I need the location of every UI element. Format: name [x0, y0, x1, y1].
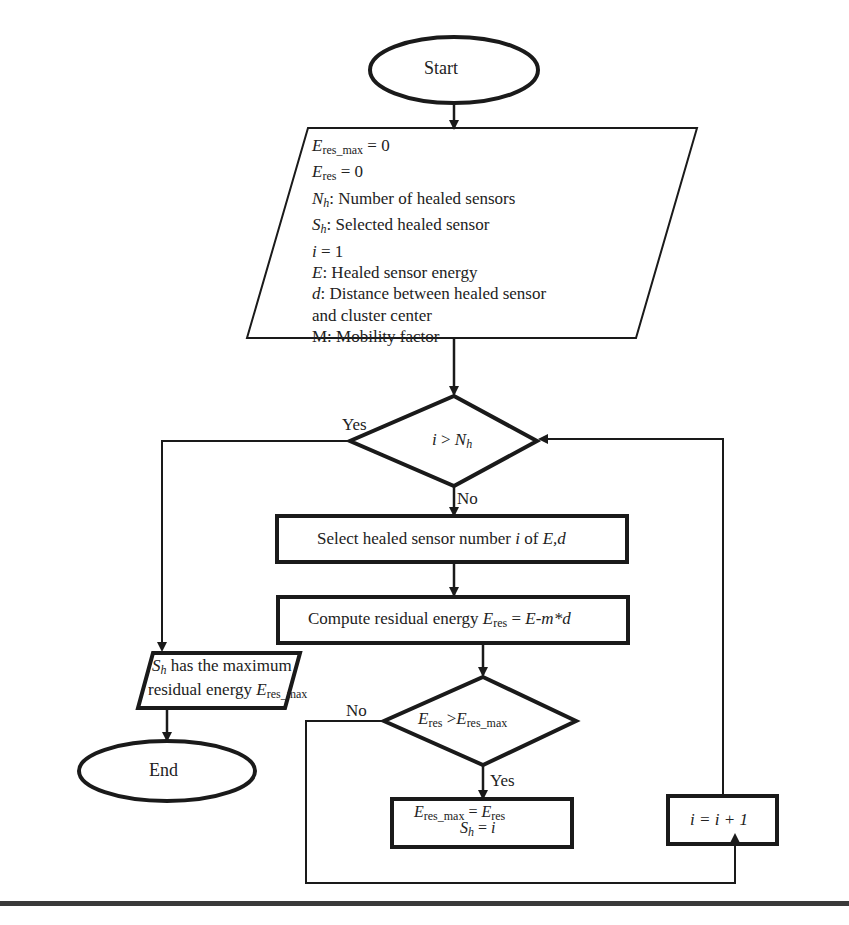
end-label: End: [149, 760, 178, 780]
output-line2: residual energy Eres_max: [148, 680, 307, 704]
compute-step-label: Compute residual energy Eres = E-m*d: [308, 609, 571, 633]
init-line-e: E: Healed sensor energy: [312, 262, 546, 283]
increment-step-label: i = i + 1: [690, 810, 748, 830]
decision-loop-label: i > Nh: [432, 430, 472, 454]
init-block-text: Eres_max = 0 Eres = 0 Nh: Number of heal…: [312, 135, 546, 348]
start-label: Start: [424, 58, 458, 78]
init-line-eres: Eres = 0: [312, 161, 546, 187]
decision-loop-no-label: No: [457, 489, 478, 509]
decision-loop-yes-label: Yes: [342, 415, 367, 435]
init-line-nh: Nh: Number of healed sensors: [312, 188, 546, 214]
update-step-line2: Sh = i: [460, 818, 495, 842]
init-line-d: d: Distance between healed sensor: [312, 283, 546, 304]
init-line-eresmax: Eres_max = 0: [312, 135, 546, 161]
init-line-cluster: and cluster center: [312, 305, 546, 326]
bottom-rule: [0, 901, 849, 906]
init-line-mobility: M: Mobility factor: [312, 326, 546, 347]
init-line-i: i = 1: [312, 241, 546, 262]
decision-energy-yes-label: Yes: [490, 771, 515, 791]
init-line-sh: Sh: Selected healed sensor: [312, 214, 546, 240]
decision-energy-label: Eres >Eres_max: [418, 709, 507, 733]
output-line1: Sh has the maximum: [152, 656, 292, 680]
select-step-label: Select healed sensor number i of E,d: [317, 529, 566, 549]
decision-energy-no-label: No: [346, 701, 367, 721]
